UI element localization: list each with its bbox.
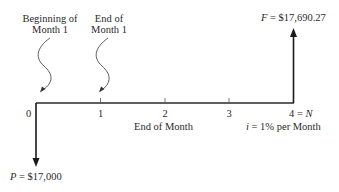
beginning-label-line1: Beginning of (22, 13, 77, 24)
rate-value: = 1% per Month (249, 121, 321, 132)
end-of-month-label: End of Month 1 (91, 13, 127, 35)
beginning-pointer-squiggle (38, 38, 51, 90)
end-label-line1: End of (91, 13, 127, 24)
end-pointer-arrowhead-icon (99, 87, 105, 93)
tick-label-1: 1 (98, 108, 103, 119)
up-arrowhead-icon (290, 28, 297, 37)
beginning-pointer-arrowhead-icon (40, 87, 46, 93)
beginning-of-month-label: Beginning of Month 1 (22, 13, 77, 35)
tick-label-0: 0 (26, 108, 31, 119)
interest-rate-label: i = 1% per Month (246, 121, 321, 132)
tick-label-4: 4 = (289, 108, 305, 119)
tick-label-2: 2 (162, 108, 167, 119)
tick-label-n: 4 = N (289, 108, 312, 119)
down-arrowhead-icon (33, 158, 40, 167)
axis-caption: End of Month (134, 121, 193, 132)
end-label-line2: Month 1 (91, 24, 127, 35)
tick-label-3: 3 (226, 108, 231, 119)
future-value: = $17,690.27 (267, 12, 325, 23)
beginning-label-line2: Month 1 (22, 24, 77, 35)
periods-var: N (305, 108, 312, 119)
present-value: = $17,000 (16, 171, 61, 182)
future-value-label: F = $17,690.27 (261, 12, 326, 23)
present-value-label: P = $17,000 (10, 171, 62, 182)
end-pointer-squiggle (96, 38, 109, 90)
